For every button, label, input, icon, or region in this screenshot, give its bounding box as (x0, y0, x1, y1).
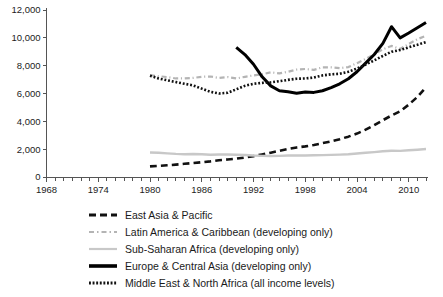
x-tick-label: 1986 (191, 184, 212, 195)
x-tick-label: 1992 (243, 184, 264, 195)
y-tick-label: 12,000 (11, 4, 40, 15)
legend-item-label: Latin America & Caribbean (developing on… (125, 226, 333, 238)
series-line-2 (150, 149, 426, 156)
y-tick-label: 2,000 (17, 144, 41, 155)
y-tick-label: 10,000 (11, 32, 40, 43)
legend-item-label: Middle East & North Africa (all income l… (125, 277, 335, 289)
y-tick-label: 6,000 (17, 88, 41, 99)
legend-item[interactable]: Latin America & Caribbean (developing on… (88, 223, 418, 240)
y-tick-label: 4,000 (17, 116, 41, 127)
x-tick-label: 1998 (295, 184, 316, 195)
chart-container: 02,0004,0006,0008,00010,00012,000 196819… (0, 0, 443, 297)
series-line-3 (236, 23, 426, 94)
y-tick-label: 8,000 (17, 60, 41, 71)
legend-item[interactable]: Europe & Central Asia (developing only) (88, 258, 418, 275)
legend-swatch-icon (88, 260, 118, 272)
series-group (150, 23, 426, 167)
series-line-4 (150, 42, 426, 93)
y-axis: 02,0004,0006,0008,00010,00012,000 (11, 4, 46, 182)
legend-item-label: Sub-Saharan Africa (developing only) (125, 243, 299, 255)
chart-legend: East Asia & PacificLatin America & Carib… (88, 206, 418, 292)
legend-swatch-icon (88, 277, 118, 289)
x-tick-label: 1980 (139, 184, 160, 195)
legend-item[interactable]: Sub-Saharan Africa (developing only) (88, 240, 418, 257)
legend-item[interactable]: Middle East & North Africa (all income l… (88, 275, 418, 292)
x-tick-label: 2010 (398, 184, 419, 195)
legend-swatch-icon (88, 209, 118, 221)
legend-item-label: East Asia & Pacific (125, 209, 213, 221)
legend-swatch-icon (88, 243, 118, 255)
x-tick-label: 1974 (88, 184, 109, 195)
line-chart-plot: 02,0004,0006,0008,00010,00012,000 196819… (0, 0, 443, 200)
legend-item[interactable]: East Asia & Pacific (88, 206, 418, 223)
x-tick-label: 2004 (346, 184, 367, 195)
x-axis: 19681974198019861992199820042010 (36, 177, 428, 195)
x-tick-label: 1968 (36, 184, 57, 195)
y-tick-label: 0 (35, 171, 40, 182)
legend-swatch-icon (88, 226, 118, 238)
legend-item-label: Europe & Central Asia (developing only) (125, 260, 311, 272)
